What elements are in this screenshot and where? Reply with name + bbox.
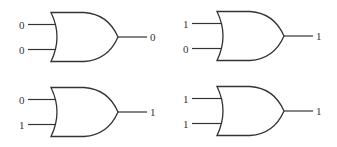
input-b-label: 0 [19, 44, 25, 56]
or-gate-1: 0 0 0 [19, 13, 156, 62]
or-gate-3: 0 1 1 [19, 88, 156, 137]
or-gate-body-icon [217, 87, 284, 136]
input-a-label: 1 [183, 18, 189, 30]
input-a-label: 0 [19, 19, 25, 31]
or-gate-4: 1 1 1 [183, 87, 322, 136]
input-a-label: 0 [19, 94, 25, 106]
or-gate-body-icon [217, 12, 284, 61]
or-gate-body-icon [51, 13, 118, 62]
input-b-label: 1 [183, 118, 189, 130]
output-label: 0 [150, 31, 156, 43]
input-a-label: 1 [183, 93, 189, 105]
output-label: 1 [150, 106, 156, 118]
output-label: 1 [316, 30, 322, 42]
input-b-label: 1 [19, 119, 25, 131]
or-gate-body-icon [51, 88, 118, 137]
or-gate-diagram: 0 0 0 1 0 1 0 1 1 1 1 1 [0, 0, 337, 147]
input-b-label: 0 [183, 43, 189, 55]
or-gate-2: 1 0 1 [183, 12, 322, 61]
output-label: 1 [316, 105, 322, 117]
